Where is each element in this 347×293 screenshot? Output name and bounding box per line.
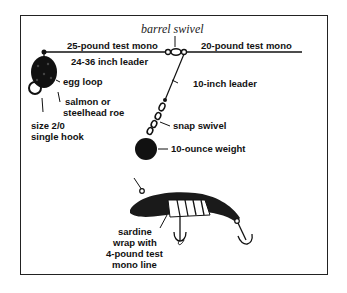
barrel-swivel-icon	[166, 36, 187, 55]
short-leader-label: 10-inch leader	[193, 78, 257, 89]
snap-swivel-icon	[146, 98, 170, 135]
main-line-left-label: 25-pound test mono	[67, 40, 158, 51]
weight-icon	[135, 138, 157, 160]
sardine-label-line3: 4-pound test	[106, 248, 163, 259]
sardine-label-line2: wrap with	[113, 237, 157, 248]
main-line-right-label: 20-pound test mono	[201, 40, 292, 51]
egg-loop-label: egg loop	[63, 76, 103, 87]
barrel-swivel-label: barrel swivel	[141, 22, 204, 37]
snap-swivel-label: snap swivel	[173, 120, 226, 131]
hook-label-line2: single hook	[31, 131, 84, 142]
sardine-label-line4: mono line	[112, 259, 157, 270]
hook-label-line1: size 2/0	[31, 120, 65, 131]
ten-inch-leader	[165, 54, 184, 100]
roe-label-line1: salmon or	[65, 96, 110, 107]
weight-label: 10-ounce weight	[171, 143, 245, 154]
roe-label-line2: steelhead roe	[63, 107, 124, 118]
roe-cluster-icon	[29, 50, 57, 95]
long-leader-label: 24-36 inch leader	[71, 56, 148, 67]
sardine-label-line1: sardine	[118, 226, 152, 237]
